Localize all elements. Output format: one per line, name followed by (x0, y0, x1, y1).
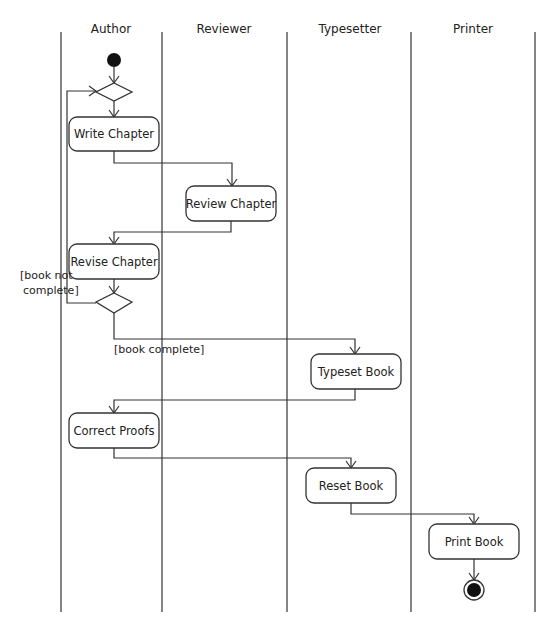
activity-typeset-book: Typeset Book (311, 354, 401, 389)
lane-title-author: Author (91, 22, 131, 36)
flow-correct-reset (114, 448, 351, 468)
activity-diagram: Author Reviewer Typesetter Printer Write… (0, 0, 553, 625)
activity-label: Revise Chapter (70, 255, 158, 269)
activity-label: Reset Book (319, 479, 384, 493)
activity-revise-chapter: Revise Chapter (69, 244, 159, 279)
guard-not-complete: [book not (20, 269, 73, 282)
activity-correct-proofs: Correct Proofs (69, 413, 159, 448)
activity-write-chapter: Write Chapter (69, 117, 159, 151)
flow-typeset-correct (114, 389, 355, 413)
activity-label: Print Book (445, 535, 504, 549)
final-node (464, 580, 484, 600)
decision-node (96, 293, 132, 313)
merge-node (96, 83, 132, 101)
activity-review-chapter: Review Chapter (186, 186, 277, 221)
guard-complete: [book complete] (114, 343, 204, 356)
flow-review-revise (114, 221, 231, 244)
lane-title-typesetter: Typesetter (318, 22, 382, 36)
activity-reset-book: Reset Book (306, 468, 396, 503)
activity-label: Review Chapter (186, 197, 277, 211)
activity-label: Write Chapter (74, 127, 154, 141)
activity-label: Typeset Book (317, 365, 395, 379)
guard-not-complete-2: complete] (23, 284, 79, 297)
lane-title-reviewer: Reviewer (196, 22, 251, 36)
initial-node (107, 53, 121, 67)
flow-reset-print (351, 503, 474, 524)
lane-title-printer: Printer (453, 22, 493, 36)
activity-label: Correct Proofs (74, 424, 155, 438)
flow-write-review (114, 151, 232, 186)
activity-print-book: Print Book (429, 524, 519, 559)
